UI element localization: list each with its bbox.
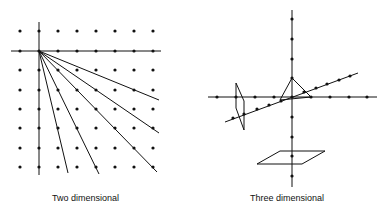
ray <box>39 51 68 173</box>
vertical-plane <box>236 83 244 130</box>
ray <box>39 51 99 174</box>
caption-two-dimensional: Two dimensional <box>52 193 119 203</box>
three-dimensional-lattice <box>208 10 377 187</box>
horizontal-plane <box>257 151 325 164</box>
ray <box>39 51 159 133</box>
two-dimensional-lattice <box>11 22 161 175</box>
ray <box>39 51 159 100</box>
lattice-diagram <box>0 0 390 215</box>
caption-three-dimensional: Three dimensional <box>250 193 324 203</box>
